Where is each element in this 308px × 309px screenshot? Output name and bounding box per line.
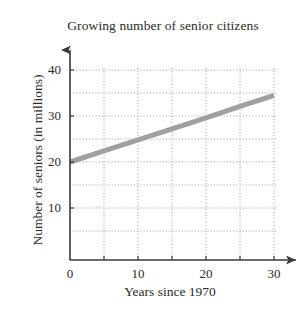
y-axis-label: Number of seniors (in millions) (30, 60, 46, 260)
chart-figure: Growing number of senior citizens (0, 0, 308, 309)
x-tick-label-20: 20 (191, 266, 221, 282)
x-axis-label: Years since 1970 (60, 284, 280, 300)
x-tick-label-10: 10 (123, 266, 153, 282)
x-tick-label-0: 0 (55, 266, 85, 282)
x-tick-label-30: 30 (259, 266, 289, 282)
